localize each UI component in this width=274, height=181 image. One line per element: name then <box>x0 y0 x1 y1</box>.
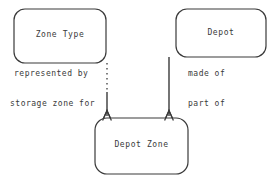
arrowhead-icon-overlay-left <box>103 111 112 121</box>
diagram-graphics-layer <box>0 0 274 181</box>
entity-box-zone-type[interactable] <box>14 9 106 63</box>
entity-box-depot-zone[interactable] <box>95 118 188 174</box>
arrowhead-icon-overlay-right <box>165 111 174 121</box>
entity-box-depot[interactable] <box>176 9 266 57</box>
er-diagram-canvas: Zone Type Depot Depot Zone represented b… <box>0 0 274 181</box>
